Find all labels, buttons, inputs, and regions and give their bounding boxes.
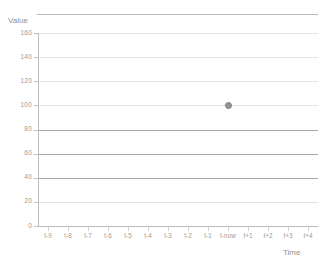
x-tick-mark-t-5 [128,227,129,231]
y-tick-label: 120 [4,78,32,85]
gridline-y-60 [38,154,318,155]
y-tick-label-wrap: 20 [0,198,32,206]
y-tick-label: 140 [4,54,32,61]
x-tick-mark-t-6 [108,227,109,231]
x-tick-mark-t-7 [88,227,89,231]
y-tick-mark-60 [34,154,38,155]
y-tick-label-wrap: 140 [0,54,32,62]
y-tick-label: 80 [4,126,32,133]
x-tick-label: t+4 [293,233,323,239]
y-tick-label-wrap: 60 [0,150,32,158]
gridline-y-120 [38,81,318,82]
gridline-y-80 [38,130,318,131]
y-tick-mark-160 [34,33,38,34]
chart-top-border [37,14,318,15]
gridline-y-140 [38,57,318,58]
y-tick-mark-100 [34,105,38,106]
y-axis-line [38,33,39,227]
y-tick-label-wrap: 100 [0,102,32,110]
y-tick-mark-0 [34,226,38,227]
x-axis-line [38,226,318,227]
y-tick-mark-80 [34,130,38,131]
y-tick-mark-20 [34,202,38,203]
x-tick-mark-t-1 [208,227,209,231]
x-tick-mark-t+3 [288,227,289,231]
data-point[interactable] [225,102,232,109]
x-tick-mark-t+1 [248,227,249,231]
x-tick-mark-t-2 [188,227,189,231]
y-tick-label-wrap: 120 [0,78,32,86]
y-tick-label-wrap: 160 [0,30,32,38]
y-tick-label: 20 [4,198,32,205]
gridline-y-40 [38,178,318,179]
x-tick-mark-t-8 [68,227,69,231]
y-axis-title: Value [8,17,28,25]
gridline-y-100 [38,105,318,106]
y-tick-label: 0 [4,223,32,230]
x-tick-mark-t+4 [308,227,309,231]
x-tick-mark-t+2 [268,227,269,231]
plot-area [38,33,318,226]
y-tick-label-wrap: 80 [0,126,32,134]
y-tick-label: 160 [4,30,32,37]
y-tick-mark-40 [34,178,38,179]
y-tick-mark-140 [34,57,38,58]
y-tick-label: 60 [4,150,32,157]
y-tick-label: 100 [4,102,32,109]
x-tick-mark-t-now [228,227,229,231]
y-tick-label-wrap: 40 [0,174,32,182]
gridline-y-20 [38,202,318,203]
y-tick-label-wrap: 0 [0,223,32,231]
x-tick-mark-t-9 [48,227,49,231]
x-tick-mark-t-3 [168,227,169,231]
y-tick-label: 40 [4,174,32,181]
x-tick-mark-t-4 [148,227,149,231]
gridline-y-160 [38,33,318,34]
chart-container: Value Time 020406080100120140160 t-9t-8t… [0,0,332,269]
x-axis-title: Time [283,249,300,257]
y-tick-mark-120 [34,81,38,82]
